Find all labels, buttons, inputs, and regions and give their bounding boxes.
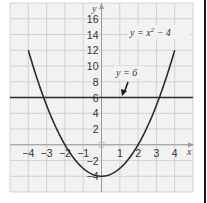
svg-text:14: 14 — [87, 29, 99, 41]
svg-text:12: 12 — [87, 44, 99, 56]
graph-plot: −4−3−2−11234161412108642−2−4 y x y = x2 … — [0, 0, 207, 203]
svg-text:8: 8 — [93, 76, 99, 88]
svg-text:4: 4 — [93, 107, 99, 119]
svg-text:−4: −4 — [22, 147, 34, 159]
right-border — [204, 0, 206, 203]
svg-text:2: 2 — [93, 123, 99, 135]
svg-text:10: 10 — [87, 60, 99, 72]
svg-text:16: 16 — [87, 13, 99, 25]
svg-text:−2: −2 — [87, 155, 99, 167]
svg-text:4: 4 — [172, 147, 178, 159]
svg-text:−3: −3 — [41, 147, 53, 159]
x-axis-label: x — [186, 146, 192, 157]
y-axis-label: y — [91, 3, 97, 14]
curve-label: y = x2 − 4 — [129, 26, 171, 38]
svg-text:1: 1 — [117, 147, 123, 159]
svg-text:3: 3 — [153, 147, 159, 159]
line-label: y = 6 — [115, 67, 137, 78]
